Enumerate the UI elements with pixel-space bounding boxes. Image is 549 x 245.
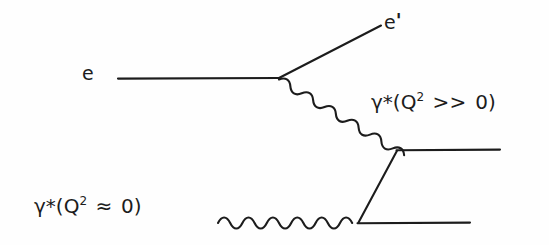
feynman-diagram-figure: e e' γ*(Q2>>0) γ*(Q2≈0) xyxy=(0,0,549,245)
label-scattered-electron-prime: ' xyxy=(396,9,402,31)
gamma-symbol-high: γ xyxy=(371,90,383,114)
q-exponent-low: 2 xyxy=(79,194,87,208)
label-virtual-photon-low: γ*(Q2≈0) xyxy=(34,196,142,216)
label-virtual-photon-high: γ*(Q2>>0) xyxy=(371,92,496,112)
value-high: 0 xyxy=(475,90,488,114)
q-exponent-high: 2 xyxy=(416,90,424,104)
star-symbol-high: * xyxy=(383,90,393,114)
scattered-electron-line xyxy=(279,26,382,79)
label-scattered-electron: e' xyxy=(384,11,402,32)
label-incoming-electron: e xyxy=(82,64,94,83)
incoming-electron-line xyxy=(118,78,279,79)
connecting-diagonal-line xyxy=(359,151,398,223)
value-low: 0 xyxy=(121,194,134,218)
relation-symbol-high: >> xyxy=(430,90,469,114)
relation-symbol-low: ≈ xyxy=(93,194,115,218)
q-symbol-high: Q xyxy=(401,90,417,114)
close-paren-low: ) xyxy=(134,194,142,218)
outgoing-line-upper xyxy=(397,150,501,151)
open-paren-high: ( xyxy=(393,90,401,114)
outgoing-line-lower xyxy=(358,223,471,224)
virtual-photon-wavy-line xyxy=(277,76,406,159)
open-paren-low: ( xyxy=(56,194,64,218)
real-photon-wavy-line xyxy=(218,217,352,228)
gamma-symbol-low: γ xyxy=(34,194,46,218)
star-symbol-low: * xyxy=(46,194,56,218)
close-paren-high: ) xyxy=(488,90,496,114)
q-symbol-low: Q xyxy=(64,194,80,218)
label-scattered-electron-base: e xyxy=(384,11,396,33)
